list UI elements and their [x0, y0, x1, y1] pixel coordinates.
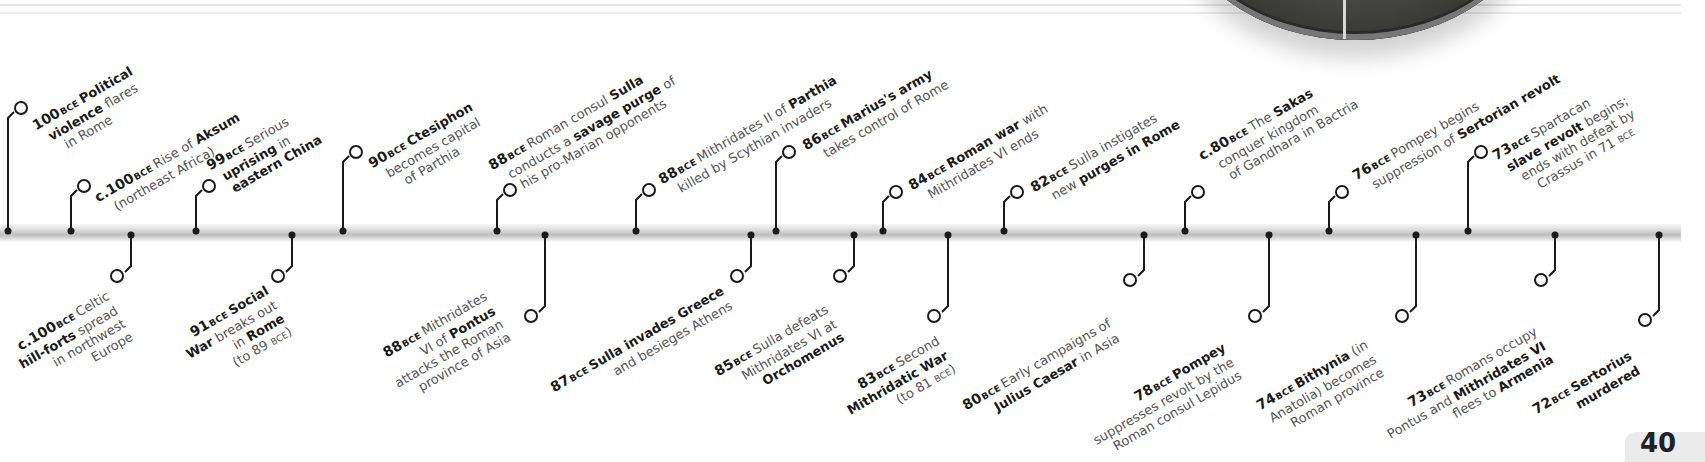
- event-73bce-romans-occupy-pontus: 73BCERomans occupy Pontus and Mithridate…: [1376, 324, 1556, 455]
- event-78bce-pompey-lepidus: 78BCEPompey suppresses revolt by the Rom…: [1082, 340, 1244, 461]
- event-c80bce-sakas: c.80BCEThe Sakas conquer kingdom of Gand…: [1196, 69, 1361, 191]
- event-90bce-ctesiphon: 90BCECtesiphon becomes capital of Parthi…: [366, 99, 491, 198]
- timeline-axis: [0, 224, 1681, 242]
- event-85bce-orchomenus: 85BCESulla defeats Mithridates VI at Orc…: [712, 302, 847, 407]
- event-c100bce-celtic-hillforts: c.100BCECeltic hill-forts spread in nort…: [8, 288, 135, 397]
- event-87bce-sulla-invades-greece: 87BCESulla invades Greece and besieges A…: [548, 283, 735, 409]
- coin-image: [1175, 0, 1535, 40]
- event-74bce-bithynia: 74BCEBithynia (in Anatolia) becomes Roma…: [1254, 337, 1386, 441]
- event-100bce-political-violence: 100BCEPolitical violence flares in Rome: [30, 64, 151, 161]
- page-number: 40: [1640, 428, 1676, 458]
- event-88bce-sulla-purge: 88BCERoman consul Sulla conducts a savag…: [486, 58, 686, 200]
- event-91bce-social-war: 91BCESocial War breaks out in Rome (to 8…: [175, 283, 296, 390]
- event-88bce-pontus-attacks-asia: 88BCEMithridates VI of Pontus attacks th…: [376, 289, 513, 404]
- coin-crack: [1343, 0, 1346, 39]
- event-83bce-second-mithridatic-war: 83BCESecond Mithridatic War (to 81 BCE): [836, 333, 959, 432]
